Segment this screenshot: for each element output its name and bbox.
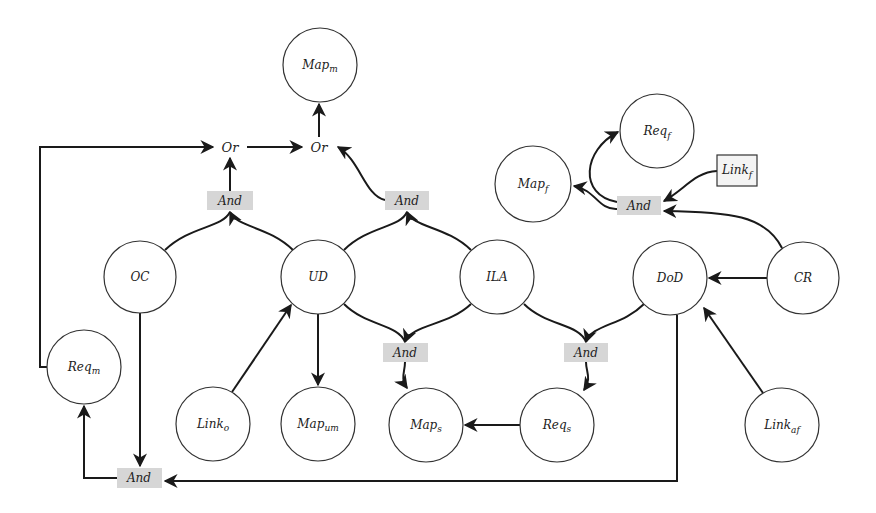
node-req-m: Reqm <box>47 330 121 404</box>
node-ila: ILA <box>460 240 534 314</box>
node-map-f: Mapf <box>495 146 571 222</box>
edge-andf-to-reqf <box>590 132 618 202</box>
edge-and2-to-or2 <box>338 147 385 200</box>
edge-and5-to-reqm <box>84 406 117 478</box>
svg-text:CR: CR <box>794 271 812 285</box>
node-map-s: Maps <box>389 388 463 462</box>
node-link-f: Linkf <box>717 155 757 186</box>
dependency-diagram: Or Or And And And And And And <box>0 0 876 513</box>
or-gate-2: Or <box>311 140 329 155</box>
and-gate-f-label: And <box>626 199 651 213</box>
edge-linkaf-to-dod <box>704 308 763 393</box>
svg-text:UD: UD <box>308 270 328 284</box>
edge-ud-to-and2 <box>344 212 407 250</box>
node-map-um: Mapum <box>281 387 355 461</box>
node-dod: DoD <box>633 241 707 315</box>
and-gate-3: And <box>383 343 428 362</box>
and-gate-1-label: And <box>217 194 242 208</box>
and-gate-5: And <box>117 468 162 488</box>
edge-ila-to-and4 <box>524 304 586 342</box>
node-ud: UD <box>281 240 355 314</box>
and-gate-3-label: And <box>392 346 417 360</box>
edge-ila-to-and2 <box>407 212 471 250</box>
edge-oc-to-and1 <box>165 212 230 250</box>
and-gate-2-label: And <box>394 194 419 208</box>
edge-linko-to-ud <box>232 305 291 392</box>
svg-text:OC: OC <box>130 270 149 284</box>
or-gate-1: Or <box>222 140 240 155</box>
node-link-o: Linko <box>176 387 250 461</box>
node-cr: CR <box>767 242 839 314</box>
edge-ud-to-and1 <box>230 212 293 250</box>
edge-and4-to-reqs <box>584 362 588 390</box>
and-gate-1: And <box>207 191 253 210</box>
node-map-m: Mapm <box>283 28 357 102</box>
node-link-af: Linkaf <box>745 388 819 462</box>
edge-ila-to-and3 <box>405 304 471 342</box>
edge-and3-to-maps <box>403 362 407 388</box>
and-gate-2: And <box>385 191 429 210</box>
svg-text:ILA: ILA <box>485 270 508 284</box>
nodes: Mapm Reqf Mapf Linkf OC UD ILA DoD <box>47 28 839 462</box>
node-oc: OC <box>104 241 176 313</box>
and-gate-5-label: And <box>126 471 151 485</box>
edge-linkf-to-andf <box>664 171 717 201</box>
node-req-s: Reqs <box>520 388 594 462</box>
and-gate-4-label: And <box>573 346 598 360</box>
svg-text:DoD: DoD <box>656 271 684 285</box>
edge-dod-to-and4 <box>586 304 644 342</box>
and-gate-f: And <box>617 196 661 215</box>
edge-ud-to-and3 <box>344 304 405 342</box>
node-req-f: Reqf <box>620 94 694 168</box>
and-gate-4: And <box>564 343 608 362</box>
